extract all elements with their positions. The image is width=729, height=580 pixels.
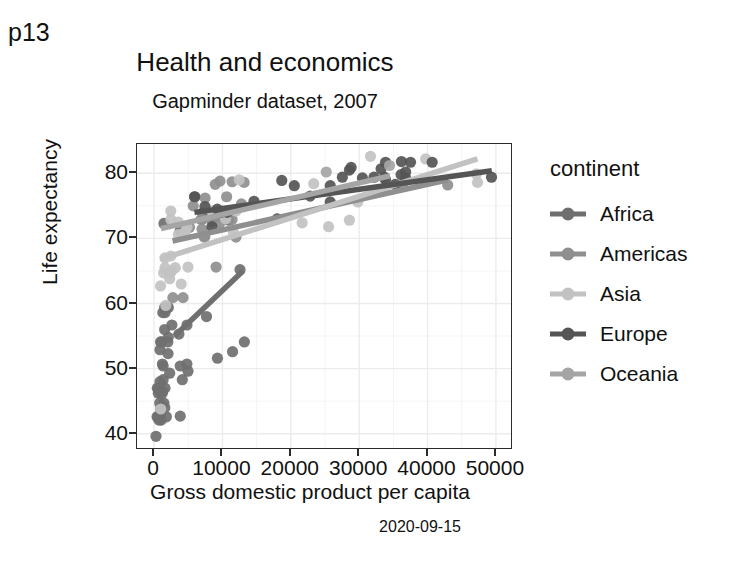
x-axis-title: Gross domestic product per capita [100,480,520,504]
x-tick-label: 30000 [329,456,387,480]
chart-subtitle: Gapminder dataset, 2007 [0,90,530,112]
x-tick-mark [220,449,222,456]
chart-caption: 2020-09-15 [260,518,580,536]
x-tick-mark [289,449,291,456]
legend-key-dot [562,208,575,221]
legend-item-list: AfricaAmericasAsiaEuropeOceania [548,194,728,394]
y-tick-mark [129,236,136,238]
legend-item-africa[interactable]: Africa [548,194,728,234]
chart-title: Health and economics [0,48,530,77]
slide-page: p13 Health and economics Gapminder datas… [0,0,729,580]
legend-key-icon [548,279,588,309]
x-tick-label: 10000 [192,456,250,480]
y-tick-mark [129,432,136,434]
y-tick-mark-group [128,143,136,449]
legend-key-icon [548,199,588,229]
y-tick-label: 80 [105,160,128,184]
x-tick-label-group: 01000020000300004000050000 [136,456,512,482]
y-axis-title: Life expectancy [38,102,62,322]
plot-panel-wrapper [136,143,512,449]
legend-key-icon [548,239,588,269]
y-tick-label-group: 4050607080 [60,143,128,449]
legend-key-dot [562,248,575,261]
y-tick-label: 50 [105,356,128,380]
legend-item-label: Europe [600,322,668,346]
plot-panel [136,143,512,449]
legend-title: continent [550,158,728,180]
legend-item-label: Americas [600,242,688,266]
legend-key-dot [562,288,575,301]
legend-key-dot [562,368,575,381]
x-tick-mark [426,449,428,456]
legend-key-dot [562,328,575,341]
x-tick-label: 50000 [466,456,524,480]
x-tick-mark [152,449,154,456]
x-tick-mark [494,449,496,456]
y-tick-label: 60 [105,291,128,315]
legend-item-americas[interactable]: Americas [548,234,728,274]
y-tick-label: 70 [105,225,128,249]
x-tick-label: 40000 [397,456,455,480]
legend: continent AfricaAmericasAsiaEuropeOceani… [548,158,728,394]
legend-item-europe[interactable]: Europe [548,314,728,354]
legend-key-icon [548,319,588,349]
y-tick-mark [129,171,136,173]
x-tick-label: 20000 [261,456,319,480]
legend-item-label: Africa [600,202,654,226]
legend-item-label: Oceania [600,362,678,386]
legend-item-oceania[interactable]: Oceania [548,354,728,394]
y-tick-label: 40 [105,421,128,445]
legend-key-icon [548,359,588,389]
legend-item-asia[interactable]: Asia [548,274,728,314]
x-tick-mark [357,449,359,456]
y-tick-mark [129,302,136,304]
slide-label: p13 [8,20,50,45]
y-tick-mark [129,367,136,369]
legend-item-label: Asia [600,282,641,306]
x-tick-label: 0 [147,456,159,480]
scatter-plot-svg [137,144,512,449]
